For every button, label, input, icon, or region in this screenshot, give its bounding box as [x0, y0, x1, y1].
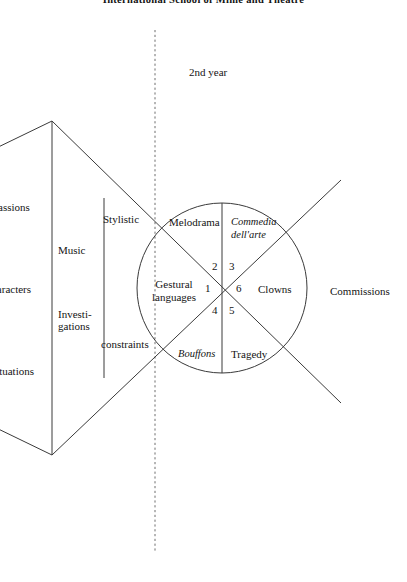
middle-band-item-investigations: Investi- gations: [58, 308, 92, 333]
year-label: 2nd year: [189, 66, 227, 78]
page-title: International School of Mime and Theatre: [0, 0, 407, 6]
diagonal-top-left-to-bottom-right: [52, 121, 341, 403]
sector-number-5: 5: [229, 304, 235, 316]
sector-number-3: 3: [229, 260, 235, 272]
circle-sector-label-melodrama: Melodrama: [169, 216, 220, 228]
stylistic-band-bottom-label: constraints: [101, 338, 149, 350]
circle-sector-label-bouffons: Bouffons: [178, 348, 215, 360]
left-column-item-characters: Characters: [0, 283, 31, 295]
left-column-item-passions: Passions: [0, 201, 30, 213]
middle-band-item-music: Music: [58, 244, 86, 256]
circle-sector-label-tragedy: Tragedy: [231, 348, 267, 360]
circle-sector-label-clowns: Clowns: [258, 283, 292, 295]
sector-number-2: 2: [212, 260, 218, 272]
frame-bottom-left-edge: [0, 424, 52, 455]
circle-sector-label-commedia-dellarte: Commedia dell'arte: [231, 216, 277, 242]
diagram-page: International School of Mime and Theatre…: [0, 0, 407, 582]
sector-number-4: 4: [212, 304, 218, 316]
circle-sector-label-gestural-languages: Gestural languages: [152, 278, 196, 305]
sector-number-6: 6: [236, 282, 242, 294]
frame-top-left-edge: [0, 121, 52, 152]
right-column-label-commissions: Commissions: [330, 285, 390, 297]
left-column-item-situations: Situations: [0, 365, 34, 377]
stylistic-band-top-label: Stylistic: [103, 213, 139, 225]
sector-number-1: 1: [205, 282, 211, 294]
